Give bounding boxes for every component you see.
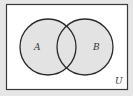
universe-label: U xyxy=(115,76,123,86)
venn-diagram: A B U xyxy=(0,0,133,96)
set-b-label: B xyxy=(92,42,100,52)
set-a-label: A xyxy=(33,42,41,52)
